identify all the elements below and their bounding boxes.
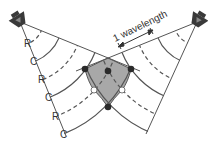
label-r: R [38, 74, 45, 85]
node-dark [105, 68, 112, 75]
left-speaker-icon [7, 8, 30, 30]
node-dark [82, 66, 89, 73]
node-light [91, 87, 97, 93]
label-c: C [60, 129, 67, 140]
node-dark [128, 66, 135, 73]
label-c: C [45, 92, 52, 103]
right-speaker-icon [187, 8, 208, 30]
label-r: R [24, 38, 31, 49]
interference-diagram: 1 wavelength R C R C R C [0, 0, 208, 141]
label-c: C [30, 56, 37, 67]
wavelength-label: 1 wavelength [111, 8, 169, 44]
wave-labels: R C R C R C [24, 38, 67, 140]
node-light [119, 87, 125, 93]
node-dark [105, 104, 112, 111]
label-r: R [52, 111, 59, 122]
